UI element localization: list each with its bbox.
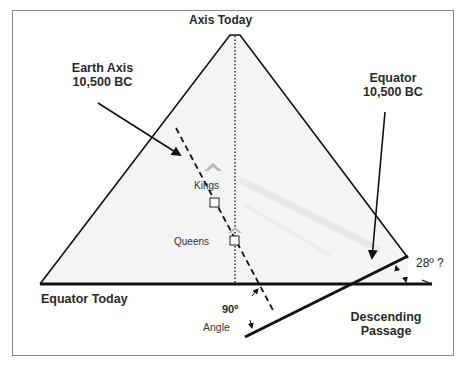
- queens-chamber-label: Queens: [174, 236, 209, 247]
- earth-axis-line2: 10,500 BC: [60, 75, 145, 89]
- queens-chamber-icon: [230, 236, 239, 245]
- angle-value-label: 90º: [222, 303, 238, 316]
- kings-chamber-icon: [210, 198, 219, 207]
- descending-line1: Descending: [336, 310, 436, 324]
- descending-passage-label: Descending Passage: [336, 310, 436, 339]
- angle-word-label: Angle: [203, 321, 230, 333]
- equator-bc-line2: 10,500 BC: [353, 85, 433, 99]
- equator-today-label: Equator Today: [41, 292, 128, 306]
- descending-line2: Passage: [336, 324, 436, 338]
- axis-today-label: Axis Today: [189, 14, 252, 28]
- kings-chamber-label: Kings: [194, 180, 219, 191]
- earth-axis-bc-label: Earth Axis 10,500 BC: [60, 61, 145, 90]
- tilt-angle-label: 28º ?: [416, 257, 444, 271]
- equator-bc-label: Equator 10,500 BC: [353, 71, 433, 100]
- equator-bc-line1: Equator: [353, 71, 433, 85]
- earth-axis-line1: Earth Axis: [60, 61, 145, 75]
